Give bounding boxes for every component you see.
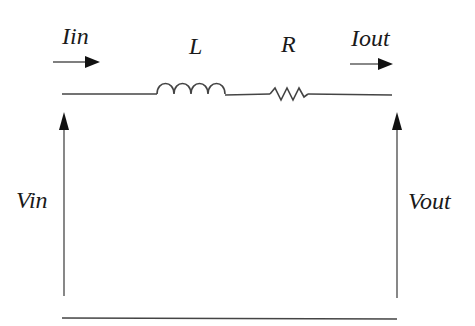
resistor-symbol-icon [270, 88, 308, 100]
input-voltage-label: Vin [16, 188, 48, 212]
bottom-wire [62, 318, 397, 319]
input-voltage-arrow-icon [59, 112, 69, 296]
output-voltage-arrow-icon [392, 112, 402, 298]
input-current-label: Iin [62, 24, 89, 48]
top-wire-right [308, 94, 392, 95]
top-wire-middle [225, 94, 270, 95]
circuit-diagram: Iin L R Iout Vin Vout [0, 0, 475, 326]
input-current-arrow-icon [53, 56, 100, 68]
output-voltage-label: Vout [408, 189, 451, 213]
inductor-symbol-icon [157, 84, 225, 95]
inductor-label: L [189, 34, 202, 58]
output-current-label: Iout [351, 26, 390, 50]
output-current-arrow-icon [350, 58, 393, 70]
resistor-label: R [281, 32, 296, 56]
